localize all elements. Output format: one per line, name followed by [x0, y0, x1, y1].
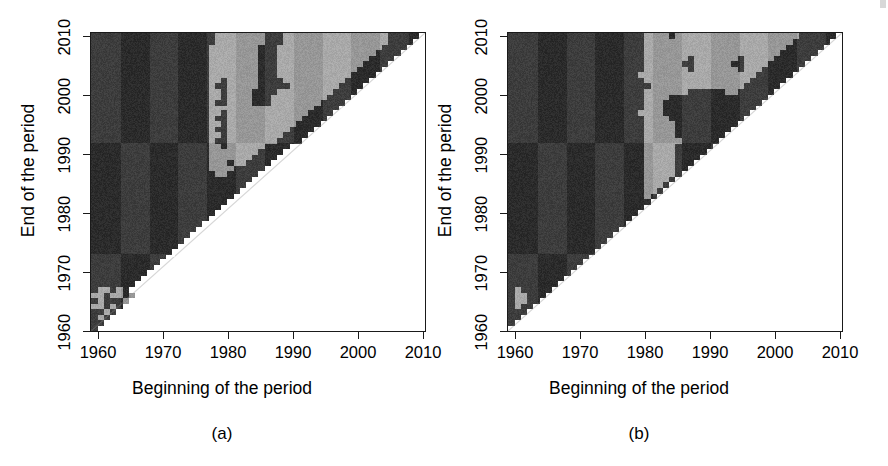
xtick-label-1990-a: 1990	[263, 344, 323, 361]
ytick-label-1970-a: 1970	[56, 248, 73, 298]
xtick-label-2000-a: 2000	[328, 344, 388, 361]
ytick-label-2000-b: 2000	[473, 71, 490, 121]
xtick-mark-2010-a	[423, 332, 424, 339]
ytick-label-1980-a: 1980	[56, 189, 73, 239]
xtick-label-2010-b: 2010	[810, 344, 870, 361]
ytick-mark-2010-a	[83, 36, 90, 37]
ytick-mark-2010-b	[500, 36, 507, 37]
xtick-label-1970-b: 1970	[550, 344, 610, 361]
ytick-label-1990-b: 1990	[473, 130, 490, 180]
ytick-label-2010-b: 2010	[473, 12, 490, 62]
panel-caption-a: (a)	[0, 424, 444, 444]
ytick-mark-1960-a	[83, 331, 90, 332]
xtick-mark-1990-a	[293, 332, 294, 339]
xtick-mark-1990-b	[710, 332, 711, 339]
ytick-label-1980-b: 1980	[473, 189, 490, 239]
xtick-label-1980-a: 1980	[198, 344, 258, 361]
plot-frame-a	[90, 32, 426, 332]
xtick-mark-1970-a	[163, 332, 164, 339]
xtick-mark-2000-b	[775, 332, 776, 339]
ytick-label-2000-a: 2000	[56, 71, 73, 121]
ytick-label-2010-a: 2010	[56, 12, 73, 62]
ytick-label-1970-b: 1970	[473, 248, 490, 298]
xtick-mark-1970-b	[580, 332, 581, 339]
xtick-mark-2010-b	[840, 332, 841, 339]
xtick-mark-1960-b	[515, 332, 516, 339]
ytick-mark-1980-b	[500, 213, 507, 214]
xtick-mark-1980-b	[645, 332, 646, 339]
ytick-mark-2000-b	[500, 95, 507, 96]
xtick-mark-1960-a	[98, 332, 99, 339]
ytick-mark-1960-b	[500, 331, 507, 332]
ytick-mark-1990-a	[83, 154, 90, 155]
xaxis-title-b: Beginning of the period	[417, 378, 861, 399]
ytick-mark-1970-b	[500, 272, 507, 273]
xaxis-title-a: Beginning of the period	[0, 378, 444, 399]
ytick-mark-1990-b	[500, 154, 507, 155]
ytick-label-1960-a: 1960	[56, 307, 73, 357]
panel-a: 1960 1970 1980 1990 2000 2010 2010 2000 …	[0, 0, 444, 466]
panel-b: 1960 1970 1980 1990 2000 2010 2010 2000 …	[444, 0, 888, 466]
ytick-label-1960-b: 1960	[473, 307, 490, 357]
ytick-label-1990-a: 1990	[56, 130, 73, 180]
ytick-mark-2000-a	[83, 95, 90, 96]
xtick-label-1960-b: 1960	[485, 344, 545, 361]
xtick-mark-2000-a	[358, 332, 359, 339]
xtick-label-2000-b: 2000	[745, 344, 805, 361]
xtick-label-1960-a: 1960	[68, 344, 128, 361]
figure-container: 1960 1970 1980 1990 2000 2010 2010 2000 …	[0, 0, 888, 466]
yaxis-title-b: End of the period	[435, 81, 456, 261]
ytick-mark-1980-a	[83, 213, 90, 214]
xtick-label-1990-b: 1990	[680, 344, 740, 361]
heatmap-canvas-a	[91, 33, 425, 331]
heatmap-canvas-b	[508, 33, 842, 331]
yaxis-title-a: End of the period	[18, 81, 39, 261]
ytick-mark-1970-a	[83, 272, 90, 273]
page-corner-mark	[880, 0, 886, 8]
panel-caption-b: (b)	[417, 424, 861, 444]
xtick-label-1970-a: 1970	[133, 344, 193, 361]
plot-frame-b	[507, 32, 843, 332]
xtick-label-1980-b: 1980	[615, 344, 675, 361]
xtick-mark-1980-a	[228, 332, 229, 339]
